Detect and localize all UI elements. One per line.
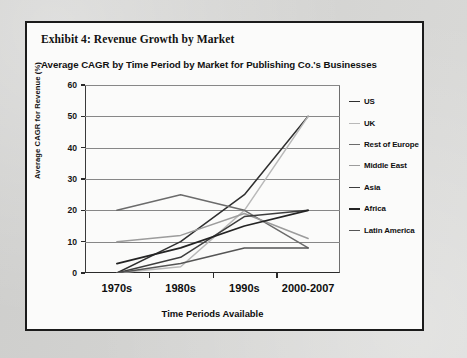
y-tick-label: 40 xyxy=(27,143,77,153)
legend-item[interactable]: Africa xyxy=(349,198,425,219)
legend-label: Africa xyxy=(364,204,386,213)
legend-item[interactable]: US xyxy=(349,91,425,112)
x-axis-title: Time Periods Available xyxy=(85,308,340,319)
x-tick-label: 1990s xyxy=(229,282,260,294)
x-tick-label: 1980s xyxy=(165,282,196,294)
legend-label: US xyxy=(364,97,375,106)
series-lines xyxy=(85,85,340,273)
legend-item[interactable]: Middle East xyxy=(349,155,425,176)
legend-item[interactable]: Rest of Europe xyxy=(349,134,425,155)
y-tick-label: 50 xyxy=(27,111,77,121)
series-line xyxy=(117,210,308,273)
x-tick-mark xyxy=(213,273,214,278)
x-tick-mark xyxy=(276,273,277,278)
series-line xyxy=(117,248,308,273)
legend-swatch-icon xyxy=(349,208,360,210)
exhibit-panel: Exhibit 4: Revenue Growth by Market Aver… xyxy=(25,21,424,331)
y-tick-label: 30 xyxy=(27,174,77,184)
y-tick-label: 60 xyxy=(27,80,77,90)
legend-swatch-icon xyxy=(349,187,360,188)
legend-item[interactable]: UK xyxy=(349,112,425,133)
y-tick-label: 0 xyxy=(27,268,77,278)
chart-legend: USUKRest of EuropeMiddle EastAsiaAfricaL… xyxy=(349,91,425,241)
x-tick-mark xyxy=(149,273,150,278)
chart-canvas: Average CAGR for Revenue (%) 01020304050… xyxy=(27,75,422,330)
legend-swatch-icon xyxy=(349,165,360,166)
legend-swatch-icon xyxy=(349,230,360,231)
legend-swatch-icon xyxy=(349,123,360,124)
series-line xyxy=(117,116,308,273)
legend-swatch-icon xyxy=(349,144,360,145)
x-tick-label: 2000-2007 xyxy=(282,282,335,294)
series-line xyxy=(117,195,308,248)
legend-item[interactable]: Asia xyxy=(349,177,425,198)
y-tick-label: 20 xyxy=(27,205,77,215)
exhibit-title: Exhibit 4: Revenue Growth by Market xyxy=(41,33,234,45)
legend-label: Middle East xyxy=(364,161,407,170)
legend-label: Asia xyxy=(364,183,380,192)
series-line xyxy=(117,116,308,273)
legend-swatch-icon xyxy=(349,101,360,102)
chart-subtitle: Average CAGR by Time Period by Market fo… xyxy=(41,59,377,70)
legend-label: UK xyxy=(364,119,375,128)
legend-label: Rest of Europe xyxy=(364,140,419,149)
legend-label: Latin America xyxy=(364,226,415,235)
x-tick-label: 1970s xyxy=(102,282,133,294)
legend-item[interactable]: Latin America xyxy=(349,219,425,240)
y-tick-label: 10 xyxy=(27,237,77,247)
